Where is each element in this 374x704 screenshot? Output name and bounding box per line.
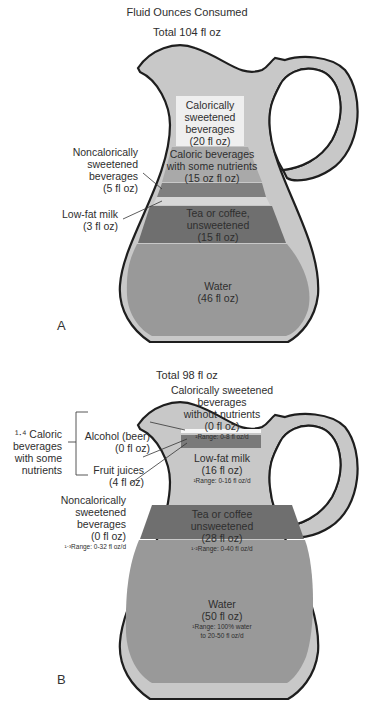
- callout-b-alcohol: Alcohol (beer) (0 fl oz): [70, 430, 150, 454]
- label-b-lowfat-milk: Low-fat milk (16 fl oz) ¹Range: 0-16 fl …: [170, 452, 274, 485]
- label-a-water: Water (46 fl oz): [150, 280, 286, 304]
- panel-letter-b: B: [57, 672, 66, 687]
- callout-b-fruit-juices: Fruit juices (4 fl oz): [70, 464, 144, 488]
- label-b-calorically-sweetened: Calorically sweetened beverages without …: [160, 384, 284, 441]
- total-a: Total 104 fl oz: [0, 26, 374, 38]
- callout-b-noncalorically: Noncalorically sweetened beverages (0 fl…: [30, 494, 126, 551]
- label-b-tea-coffee: Tea or coffee unsweetened (28 fl oz) ¹·²…: [150, 508, 294, 553]
- total-b: Total 98 fl oz: [0, 369, 374, 381]
- bracket-label-caloric-nutrients: ¹·⁴ Caloric beverages with some nutrient…: [0, 428, 62, 476]
- label-a-calorically-sweetened: Calorically sweetened beverages (20 fl o…: [176, 99, 244, 147]
- figure-title: Fluid Ounces Consumed: [0, 6, 374, 18]
- label-b-water: Water (50 fl oz) ¹Range: 100% water to 2…: [150, 598, 294, 640]
- label-a-tea-coffee: Tea or coffee, unsweetened (15 fl oz): [150, 207, 286, 243]
- layer-a-lowfat-milk: [153, 197, 270, 205]
- callout-a-noncalorically: Noncalorically sweetened beverages (5 fl…: [40, 146, 138, 194]
- layer-a-noncalorically: [157, 183, 266, 197]
- label-a-caloric-nutrients: Caloric beverages with some nutrients (1…: [162, 148, 262, 184]
- callout-a-lowfat-milk: Low-fat milk (3 fl oz): [40, 208, 118, 232]
- panel-letter-a: A: [57, 318, 66, 333]
